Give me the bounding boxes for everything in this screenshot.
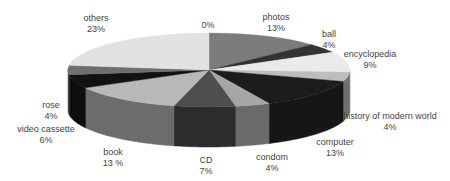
slice-others [69,33,209,70]
slice-percent: 23% [83,24,108,35]
slice-name: history of modern world [343,111,437,122]
slice-side-cd [174,106,235,147]
slice-name: encyclopedia [344,49,397,60]
slice-name: video cassette [17,124,75,135]
slice-percent: 4% [343,122,437,133]
slice-label-cd: CD7% [199,155,212,177]
slice-percent: 13 % [103,158,124,169]
slice-name: condom [256,152,288,163]
slice-name: ball [322,29,336,40]
slice-percent: 4% [256,163,288,174]
slice-label-computer: computer13% [316,137,354,159]
slice-side-rose [68,69,69,114]
slice-percent: 7% [199,166,212,177]
slice-name: book [103,147,124,158]
slice-label-history-of-modern-world: history of modern world4% [343,111,437,133]
slice-name: photos [262,12,289,23]
slice-label-rose: rose4% [42,100,60,122]
slice-percent: 0% [201,20,214,31]
slice-label-ball: ball4% [322,29,336,51]
slice-percent: 4% [322,40,336,51]
slice-percent: 9% [344,60,397,71]
slice-percent: 13% [316,148,354,159]
pie-top-faces [68,33,350,107]
slice-label-book: book13 % [103,147,124,169]
slice-label-video-cassette: video cassette6% [17,124,75,146]
slice-name: others [83,13,108,24]
slice-name: rose [42,100,60,111]
slice-name: computer [316,137,354,148]
slice-label-encyclopedia: encyclopedia9% [344,49,397,71]
slice-percent: 13% [262,23,289,34]
slice-label-others: others23% [83,13,108,35]
slice-label-condom: condom4% [256,152,288,174]
slice-side-condom [235,103,269,146]
slice-label-zero: 0% [201,20,214,31]
pie-chart-3d [0,0,450,181]
slice-name: CD [199,155,212,166]
slice-percent: 4% [42,111,60,122]
slice-label-photos: photos13% [262,12,289,34]
slice-percent: 6% [17,135,75,146]
